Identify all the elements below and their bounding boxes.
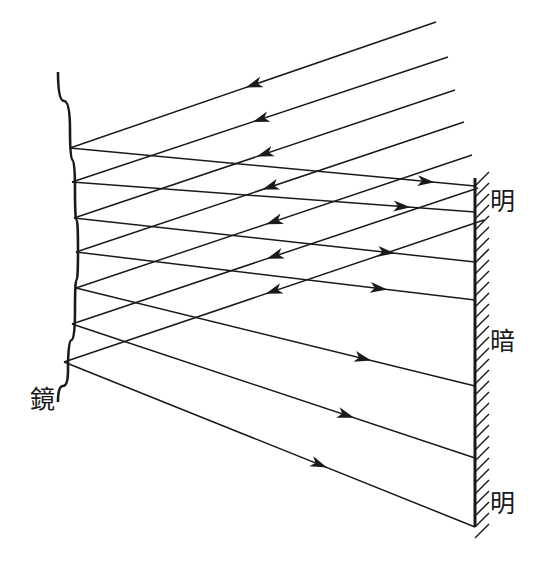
screen-hatch-line [475,282,489,296]
mirror-reflective-surface [58,72,78,402]
screen-hatch-line [475,524,489,538]
screen-hatch-line [475,260,489,274]
screen-hatch-line [475,436,489,450]
screen-hatch-line [475,293,489,307]
screen-hatch-line [475,271,489,285]
screen-hatch-line [475,249,489,263]
screen-hatch-line [475,480,489,494]
reflected-ray-arrowhead-5 [353,351,372,366]
incident-ray-arrowhead-5 [264,214,284,230]
screen-hatch-line [475,183,489,197]
screen-hatch-line [475,227,489,241]
incident-parallel-rays [64,22,484,362]
screen-hatch-line [475,348,489,362]
screen-hatch-line [475,172,489,186]
screen-hatch-line [475,502,489,516]
incident-ray-arrowhead-6 [265,248,285,264]
screen-hatch-line [475,205,489,219]
reflected-ray-line-7 [64,362,475,527]
incident-ray-arrowhead-7 [264,283,284,299]
mirror-label: 鏡 [30,385,55,414]
screen-label-bright-bottom: 明 [490,489,515,518]
screen-label-bright-top: 明 [490,187,515,216]
screen-hatch-line [475,392,489,406]
screen-hatch-line [475,194,489,208]
screen-hatch-line [475,513,489,527]
reflected-ray-line-1 [70,148,475,186]
mirror [58,72,78,402]
screen-hatch-line [475,403,489,417]
screen-hatch-line [475,304,489,318]
screen-hatch-line [475,447,489,461]
reflected-ray-arrowhead-6 [336,407,356,423]
incident-ray-arrowhead-2 [251,111,271,127]
screen-hatch-line [475,414,489,428]
screen-hatch-line [475,315,489,329]
screen-hatch-line [475,370,489,384]
screen-hatch-line [475,326,489,340]
diagram-labels: 鏡明暗明 [30,187,515,518]
screen-hatch-line [475,469,489,483]
screen-hatch-line [475,425,489,439]
projection-screen [475,172,489,538]
incident-ray-arrowhead-1 [244,77,264,93]
screen-hatch-line [475,359,489,373]
reflected-ray-line-6 [72,324,475,458]
reflected-ray-arrowhead-7 [309,456,329,473]
optics-ray-diagram: 鏡明暗明 [0,0,552,570]
diagram-canvas: 鏡明暗明 [0,0,552,570]
screen-hatch-line [475,491,489,505]
screen-label-dark: 暗 [490,327,515,356]
screen-hatch-line [475,381,489,395]
screen-hatching [475,172,489,538]
screen-hatch-line [475,238,489,252]
incident-ray-arrowhead-4 [260,179,280,195]
incident-ray-arrowhead-3 [255,146,275,162]
screen-hatch-line [475,458,489,472]
screen-hatch-line [475,337,489,351]
reflected-ray-arrowhead-4 [370,282,388,295]
reflected-rays [64,148,475,527]
